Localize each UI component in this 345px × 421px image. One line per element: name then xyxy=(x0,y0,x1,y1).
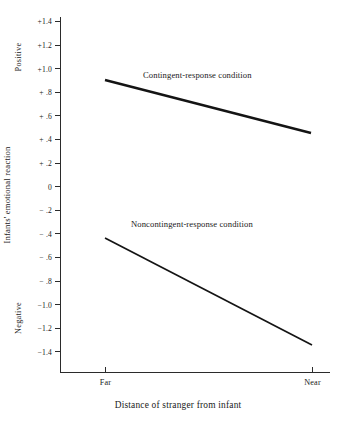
y-tick-label: + .8 xyxy=(39,88,52,97)
x-axis-ticks: Far Near xyxy=(100,367,321,387)
y-tick-label: − .6 xyxy=(39,253,52,262)
series-line-contingent-response xyxy=(105,80,311,133)
y-tick-label: −1.0 xyxy=(37,301,52,310)
x-tick-label-far: Far xyxy=(100,378,112,387)
series-label-contingent-response: Contingent-response condition xyxy=(143,70,252,80)
series-line-noncontingent-response xyxy=(105,238,312,345)
y-tick-label: +1.0 xyxy=(37,65,52,74)
y-tick-label: + .2 xyxy=(39,159,52,168)
y-axis-ticks: +1.4 +1.2 +1.0 + .8 + .6 + .4 + .2 0 − .… xyxy=(37,17,60,356)
x-axis-title: Distance of stranger from infant xyxy=(115,400,242,410)
chart-figure: +1.4 +1.2 +1.0 + .8 + .6 + .4 + .2 0 − .… xyxy=(0,0,345,421)
y-tick-label: +1.4 xyxy=(37,17,52,26)
series-label-noncontingent-response: Noncontingent-response condition xyxy=(131,219,253,229)
y-tick-label: −1.4 xyxy=(37,348,52,357)
y-tick-label: − .8 xyxy=(39,277,52,286)
y-tick-label: + .4 xyxy=(39,135,52,144)
y-tick-label: 0 xyxy=(48,183,52,192)
y-tick-label: − .2 xyxy=(39,206,52,215)
x-tick-label-near: Near xyxy=(304,378,321,387)
y-axis-negative-pole-label: Negative xyxy=(14,302,23,334)
y-tick-label: + .6 xyxy=(39,112,52,121)
y-tick-label: +1.2 xyxy=(37,41,52,50)
y-tick-label: − .4 xyxy=(39,230,52,239)
y-axis-title: Infants' emotional reaction xyxy=(2,146,12,244)
y-tick-label: −1.2 xyxy=(37,324,52,333)
emotional-reaction-line-chart: +1.4 +1.2 +1.0 + .8 + .6 + .4 + .2 0 − .… xyxy=(0,0,345,421)
y-axis-positive-pole-label: Positive xyxy=(14,43,23,72)
